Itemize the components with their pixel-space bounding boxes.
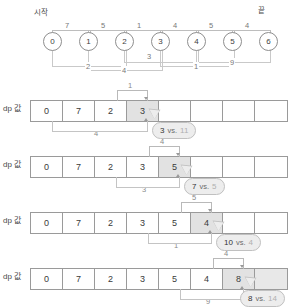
dp-cell[interactable]: 3 [127, 157, 159, 177]
dp-row-3-cells: 0 7 2 3 5 4 [30, 212, 288, 234]
dp-row-3-upper-arrow-icon [208, 209, 212, 212]
dp-row-1-upper-bracket-label: 1 [128, 81, 132, 90]
graph-node-0[interactable]: 0 [43, 32, 62, 51]
dp-cell[interactable] [255, 101, 287, 121]
dp-cell[interactable] [223, 157, 255, 177]
dp-cell[interactable]: 0 [31, 269, 63, 289]
edge-weight-bottom-0-2: 2 [85, 62, 91, 71]
bubble-value-chosen: 8 [248, 294, 252, 303]
dp-cell[interactable] [223, 213, 255, 233]
dp-cell[interactable]: 7 [63, 157, 95, 177]
dp-row-4-lower-bracket [180, 289, 244, 300]
graph-node-1[interactable]: 1 [79, 32, 98, 51]
edge-weight-bottom-3-5: 1 [193, 62, 199, 71]
edge-weight-top-5-6: 4 [244, 21, 250, 30]
end-label: 끝 [258, 4, 265, 15]
dp-row-1-label: dp 값 [3, 102, 21, 113]
bubble-value-chosen: 10 [224, 238, 233, 247]
dp-row-4-bubble-pointer [245, 278, 256, 288]
dp-row-4-upper-arrow-icon [240, 265, 244, 268]
dp-row-1-upper-arrow-icon [144, 97, 148, 100]
bubble-value-other: 4 [249, 238, 253, 247]
dp-row-3: dp 값 5 1 0 7 2 3 5 4 10 vs. 4 [0, 194, 299, 252]
dp-cell[interactable] [255, 157, 287, 177]
bubble-vs-text: vs. [167, 126, 177, 135]
graph-node-5[interactable]: 5 [223, 32, 242, 51]
dp-cell[interactable]: 0 [31, 213, 63, 233]
dp-cell[interactable] [255, 269, 287, 289]
dp-cell[interactable]: 7 [63, 269, 95, 289]
graph-node-6[interactable]: 6 [259, 32, 278, 51]
dp-cell[interactable]: 2 [95, 157, 127, 177]
dp-row-2-upper-arrow-icon [176, 153, 180, 156]
dp-cell[interactable]: 5 [159, 213, 191, 233]
start-label: 시작 [34, 6, 48, 17]
bubble-value-other: 5 [212, 182, 216, 191]
dp-row-2-comparison-bubble: 7 vs. 5 [184, 178, 225, 195]
dp-row-1-comparison-bubble: 3 vs. 11 [152, 122, 196, 139]
dp-cell[interactable] [255, 213, 287, 233]
bubble-value-chosen: 3 [160, 126, 164, 135]
graph-node-4[interactable]: 4 [187, 32, 206, 51]
dp-cell[interactable]: 3 [127, 269, 159, 289]
dp-cell[interactable]: 2 [95, 213, 127, 233]
dp-row-2: dp 값 4 3 0 7 2 3 5 7 vs. 5 [0, 138, 299, 196]
dp-row-3-lower-bracket [148, 233, 212, 244]
dp-row-1: dp 값 1 4 0 7 2 3 3 vs. 11 [0, 82, 299, 140]
dp-row-4: dp 값 4 9 0 7 2 3 5 4 8 8 vs. 14 [0, 250, 299, 308]
dp-cell[interactable]: 3 [127, 213, 159, 233]
dp-row-1-lower-bracket [52, 121, 148, 132]
bubble-value-other: 11 [180, 126, 188, 135]
dp-cell[interactable]: 7 [63, 101, 95, 121]
edge-weight-top-0-1: 7 [64, 21, 70, 30]
dp-cell[interactable]: 5 [159, 269, 191, 289]
edge-weight-top-1-2: 5 [100, 21, 106, 30]
edge-weight-bottom-1-3: 4 [121, 66, 127, 75]
bubble-value-chosen: 7 [192, 182, 196, 191]
dp-cell[interactable] [159, 101, 191, 121]
dp-cell[interactable]: 2 [95, 269, 127, 289]
bubble-vs-text: vs. [236, 238, 246, 247]
dp-row-1-bubble-pointer [149, 110, 160, 120]
edge-weight-bottom-2-4: 3 [146, 52, 152, 61]
dp-cell[interactable] [223, 101, 255, 121]
edge-weight-top-4-5: 5 [208, 21, 214, 30]
edge-weight-bottom-4-6: 9 [229, 58, 235, 67]
dp-row-2-bubble-pointer [181, 166, 192, 176]
dp-cell[interactable]: 7 [63, 213, 95, 233]
dp-cell[interactable]: 2 [95, 101, 127, 121]
dp-row-4-comparison-bubble: 8 vs. 14 [240, 290, 285, 307]
graph-section: 시작 끝 0 1 2 3 4 5 6 7 5 1 4 5 4 2 4 3 1 [0, 0, 299, 78]
edge-weight-top-2-3: 1 [136, 21, 142, 30]
dp-cell[interactable] [191, 101, 223, 121]
graph-node-3[interactable]: 3 [151, 32, 170, 51]
dp-row-3-comparison-bubble: 10 vs. 4 [216, 234, 261, 251]
dp-row-3-bubble-pointer [213, 222, 224, 232]
dp-cell[interactable]: 0 [31, 101, 63, 121]
bubble-vs-text: vs. [255, 294, 265, 303]
dp-cell[interactable] [191, 157, 223, 177]
dp-row-4-label: dp 값 [3, 270, 21, 281]
dp-cell[interactable]: 4 [191, 269, 223, 289]
bubble-value-other: 14 [268, 294, 277, 303]
dp-cell[interactable]: 0 [31, 157, 63, 177]
edge-weight-top-3-4: 4 [172, 21, 178, 30]
graph-node-2[interactable]: 2 [115, 32, 134, 51]
dp-row-3-label: dp 값 [3, 214, 21, 225]
bubble-vs-text: vs. [199, 182, 209, 191]
dp-row-2-lower-bracket [116, 177, 180, 188]
dp-row-2-label: dp 값 [3, 158, 21, 169]
dp-row-2-cells: 0 7 2 3 5 [30, 156, 288, 178]
